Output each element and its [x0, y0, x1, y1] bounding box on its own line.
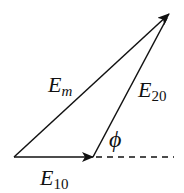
label-e20: E20 [137, 77, 166, 104]
label-em: Em [47, 72, 72, 99]
phasor-diagram: Em E20 ϕ E10 [0, 0, 184, 193]
label-e10: E10 [39, 165, 68, 192]
label-phi: ϕ [109, 126, 121, 152]
